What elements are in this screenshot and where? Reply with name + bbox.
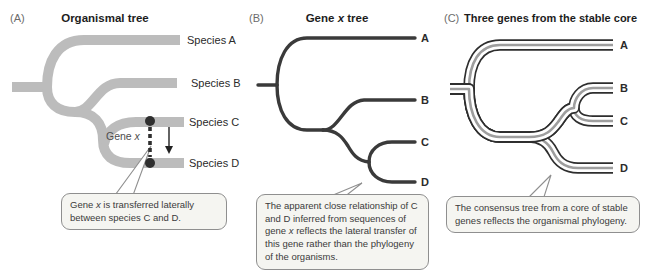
species-a-label: Species A (187, 34, 236, 46)
genex-tip-d-label: D (421, 176, 429, 188)
panel-b-title-pre: Gene (306, 12, 338, 24)
gene-x-annotation-x: x (135, 130, 140, 142)
genex-tip-c-label: C (421, 136, 429, 148)
callout-pointer-a (113, 146, 151, 198)
callout-c: The consensus tree from a core of stable… (446, 196, 640, 233)
panel-b-tag: (B) (249, 12, 264, 24)
species-b-label: Species B (191, 77, 241, 89)
organismal-tree (12, 40, 184, 163)
panel-c-tag: (C) (444, 12, 459, 24)
genex-trunk-lower (277, 85, 323, 130)
genex-branch-a (277, 38, 415, 85)
callout-a: Gene x is transferred laterally between … (61, 193, 227, 230)
genex-trunk-cd (323, 130, 369, 162)
downward-arrow-head-icon (165, 146, 173, 154)
transfer-dot-bottom-icon (145, 158, 155, 168)
core-bundle-b (450, 88, 613, 137)
core-tip-b-label: B (620, 82, 628, 94)
genex-branch-d (369, 162, 415, 182)
core-tip-c-label: C (620, 115, 628, 127)
gene-x-annotation-pre: Gene (106, 130, 135, 142)
figure-lateral-gene-transfer: (A) Organismal tree Species A Species B … (0, 0, 648, 272)
gene-x-annotation: Gene x (106, 130, 140, 142)
callout-a-text-pre: Gene (70, 199, 96, 210)
panel-c-title: Three genes from the stable core (464, 12, 636, 24)
core-tip-d-label: D (620, 162, 628, 174)
panel-a-tag: (A) (10, 12, 25, 24)
species-d-label: Species D (189, 157, 239, 169)
organismal-branch-species-b (75, 83, 177, 112)
genex-branch-c (369, 142, 415, 162)
core-tip-a-label: A (620, 39, 628, 51)
transfer-dot-top-icon (145, 116, 155, 126)
panel-a-title: Organismal tree (30, 12, 180, 24)
species-c-label: Species C (189, 116, 239, 128)
organismal-trunk-lower (47, 87, 75, 112)
genex-tip-b-label: B (421, 94, 429, 106)
genex-branch-b (323, 100, 415, 130)
gene-x-tree (258, 38, 415, 182)
panel-b-title-post: tree (344, 12, 368, 24)
callout-b: The apparent close relationship of C and… (256, 194, 429, 270)
genex-tip-a-label: A (421, 32, 429, 44)
panel-b-title: Gene x tree (267, 12, 407, 24)
core-bundle-a (450, 45, 613, 89)
stable-core-tree (450, 45, 613, 168)
